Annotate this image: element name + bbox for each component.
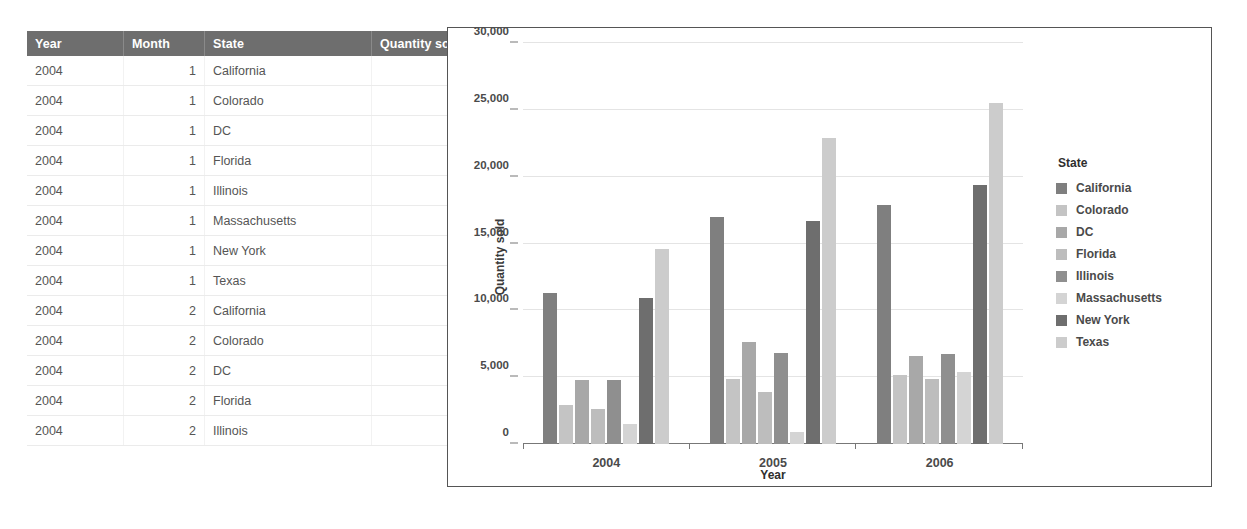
y-axis-tick-mark: [510, 108, 518, 109]
legend-item-label: Massachusetts: [1076, 291, 1162, 305]
table-row[interactable]: 20042Florida230: [27, 386, 508, 416]
cell-year: 2004: [27, 146, 124, 176]
table-row[interactable]: 20041Massachusetts236: [27, 206, 508, 236]
bar-texas-2004[interactable]: [655, 249, 669, 444]
chart-legend: State CaliforniaColoradoDCFloridaIllinoi…: [1056, 156, 1206, 353]
legend-item-florida[interactable]: Florida: [1056, 243, 1206, 265]
legend-item-texas[interactable]: Texas: [1056, 331, 1206, 353]
cell-state: Colorado: [205, 326, 372, 356]
column-header-month[interactable]: Month: [124, 31, 205, 56]
bar-colorado-2005[interactable]: [726, 379, 740, 444]
y-axis-tick-label: 10,000: [474, 292, 509, 304]
legend-item-new-york[interactable]: New York: [1056, 309, 1206, 331]
cell-year: 2004: [27, 416, 124, 446]
cell-year: 2004: [27, 176, 124, 206]
cell-month: 2: [124, 296, 205, 326]
table-row[interactable]: 20041DC542: [27, 116, 508, 146]
bar-illinois-2006[interactable]: [941, 354, 955, 444]
table-row[interactable]: 20041New York1,483: [27, 236, 508, 266]
legend-swatch-icon: [1056, 271, 1067, 282]
cell-year: 2004: [27, 86, 124, 116]
bar-dc-2005[interactable]: [742, 342, 756, 444]
y-axis-tick-label: 20,000: [474, 159, 509, 171]
plot-area: 05,00010,00015,00020,00025,00030,000 200…: [523, 43, 1023, 444]
bar-colorado-2004[interactable]: [559, 405, 573, 444]
legend-swatch-icon: [1056, 293, 1067, 304]
y-axis-tick-mark: [510, 175, 518, 176]
cell-month: 1: [124, 56, 205, 86]
bar-illinois-2004[interactable]: [607, 380, 621, 444]
legend-item-dc[interactable]: DC: [1056, 221, 1206, 243]
cell-month: 1: [124, 116, 205, 146]
legend-item-colorado[interactable]: Colorado: [1056, 199, 1206, 221]
bar-dc-2004[interactable]: [575, 380, 589, 444]
bar-group-2004: 2004: [523, 43, 690, 444]
column-header-year[interactable]: Year: [27, 31, 124, 56]
cell-year: 2004: [27, 56, 124, 86]
bar-new-york-2004[interactable]: [639, 298, 653, 444]
legend-item-label: Colorado: [1076, 203, 1129, 217]
legend-item-massachusetts[interactable]: Massachusetts: [1056, 287, 1206, 309]
table-row[interactable]: 20042Illinois463: [27, 416, 508, 446]
bar-massachusetts-2005[interactable]: [790, 432, 804, 444]
legend-item-california[interactable]: California: [1056, 177, 1206, 199]
bar-california-2004[interactable]: [543, 293, 557, 444]
bar-california-2005[interactable]: [710, 217, 724, 444]
bar-illinois-2005[interactable]: [774, 353, 788, 444]
cell-month: 1: [124, 236, 205, 266]
bar-texas-2005[interactable]: [822, 138, 836, 444]
bar-florida-2004[interactable]: [591, 409, 605, 444]
bar-new-york-2005[interactable]: [806, 221, 820, 444]
cell-year: 2004: [27, 236, 124, 266]
cell-month: 1: [124, 86, 205, 116]
table-row[interactable]: 20041Florida378: [27, 146, 508, 176]
legend-item-label: DC: [1076, 225, 1093, 239]
bar-massachusetts-2004[interactable]: [623, 424, 637, 444]
cell-state: Florida: [205, 386, 372, 416]
legend-swatch-icon: [1056, 205, 1067, 216]
y-axis-tick-mark: [510, 242, 518, 243]
legend-swatch-icon: [1056, 337, 1067, 348]
table-row[interactable]: 20042California921: [27, 296, 508, 326]
cell-month: 2: [124, 356, 205, 386]
legend-swatch-icon: [1056, 227, 1067, 238]
column-header-state[interactable]: State: [205, 31, 372, 56]
bar-florida-2006[interactable]: [925, 379, 939, 444]
table-row[interactable]: 20042Colorado261: [27, 326, 508, 356]
bar-dc-2006[interactable]: [909, 356, 923, 444]
cell-state: Illinois: [205, 176, 372, 206]
table-row[interactable]: 20041Texas2,094: [27, 266, 508, 296]
legend-item-label: Texas: [1076, 335, 1109, 349]
cell-month: 2: [124, 386, 205, 416]
legend-item-label: New York: [1076, 313, 1130, 327]
legend-title: State: [1056, 156, 1206, 170]
cell-month: 1: [124, 176, 205, 206]
y-axis-tick-mark: [510, 443, 518, 444]
data-table-panel: Year Month State Quantity sold 20041Cali…: [27, 31, 441, 479]
bar-texas-2006[interactable]: [989, 103, 1003, 444]
cell-month: 1: [124, 146, 205, 176]
table-header-row: Year Month State Quantity sold: [27, 31, 508, 56]
cell-state: California: [205, 296, 372, 326]
table-header: Year Month State Quantity sold: [27, 31, 508, 56]
table-row[interactable]: 20041California1,185: [27, 56, 508, 86]
legend-swatch-icon: [1056, 315, 1067, 326]
table-row[interactable]: 20042DC364: [27, 356, 508, 386]
cell-state: Illinois: [205, 416, 372, 446]
bar-california-2006[interactable]: [877, 205, 891, 444]
bar-new-york-2006[interactable]: [973, 185, 987, 444]
cell-state: Texas: [205, 266, 372, 296]
cell-state: Florida: [205, 146, 372, 176]
table-row[interactable]: 20041Colorado309: [27, 86, 508, 116]
cell-state: DC: [205, 116, 372, 146]
bar-massachusetts-2006[interactable]: [957, 372, 971, 444]
bar-groups: 200420052006: [523, 43, 1023, 444]
bar-florida-2005[interactable]: [758, 392, 772, 444]
table-row[interactable]: 20041Illinois670: [27, 176, 508, 206]
y-axis-tick-label: 0: [503, 426, 509, 438]
bar-colorado-2006[interactable]: [893, 375, 907, 445]
cell-state: DC: [205, 356, 372, 386]
cell-state: Colorado: [205, 86, 372, 116]
legend-item-illinois[interactable]: Illinois: [1056, 265, 1206, 287]
x-axis-title: Year: [523, 468, 1023, 482]
